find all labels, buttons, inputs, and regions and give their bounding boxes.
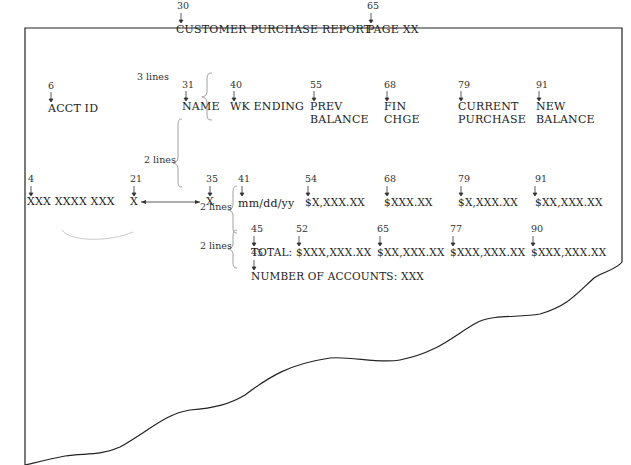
spacing-label: 2 lines	[200, 240, 232, 251]
heading-wk-ending: WK ENDING	[230, 101, 304, 113]
detail-fin-chge: $XXX.XX	[384, 196, 433, 208]
col-number: 35	[206, 174, 218, 184]
col-number: 6	[48, 81, 54, 91]
total-fin-chge: $XX,XXX.XX	[377, 246, 445, 258]
number-of-accounts: NUMBER OF ACCOUNTS: XXX	[251, 270, 424, 282]
col-number: 65	[367, 1, 379, 11]
detail-new-balance: $XX,XXX.XX	[535, 196, 603, 208]
page-number-field: PAGE XX	[367, 24, 419, 36]
col-number: 31	[182, 80, 194, 90]
col-number: 79	[458, 80, 470, 90]
heading-fin-chge-1: FIN	[384, 101, 406, 113]
col-number: 91	[535, 174, 547, 184]
col-number: 68	[384, 80, 396, 90]
col-number: 55	[310, 80, 322, 90]
col-number: 79	[458, 174, 470, 184]
col-number: 41	[238, 174, 250, 184]
spacing-label: 2 lines	[200, 201, 232, 212]
col-number: 52	[296, 224, 308, 234]
spacing-label: 2 lines	[144, 154, 176, 165]
col-number: 40	[230, 80, 242, 90]
total-new-balance: $XXX,XXX.XX	[531, 246, 606, 258]
detail-prev-balance: $X,XXX.XX	[305, 196, 365, 208]
col-number: 68	[384, 174, 396, 184]
col-number: 30	[177, 1, 189, 11]
detail-name-start: X	[130, 196, 138, 208]
report-title: CUSTOMER PURCHASE REPORT	[176, 24, 371, 36]
col-number: 54	[305, 174, 317, 184]
brace-2-lines-a	[173, 119, 182, 187]
heading-current-purchase-2: PURCHASE	[458, 114, 526, 126]
col-number: 65	[377, 224, 389, 234]
heading-new-balance-2: BALANCE	[536, 114, 595, 126]
heading-fin-chge-2: CHGE	[384, 114, 420, 126]
detail-name-end: X	[206, 196, 214, 208]
detail-current-purchase: $X,XXX.XX	[458, 196, 518, 208]
heading-current-purchase-1: CURRENT	[458, 101, 519, 113]
detail-acct-id: XXX XXXX XXX	[27, 196, 115, 208]
col-number: 21	[130, 174, 142, 184]
heading-acct-id: ACCT ID	[48, 103, 98, 115]
total-prev-balance: $XXX,XXX.XX	[296, 246, 371, 258]
total-current-purchase: $XXX,XXX.XX	[450, 246, 525, 258]
detail-week-ending: mm/dd/yy	[238, 198, 294, 210]
col-number: 45	[251, 224, 263, 234]
col-number: 45	[251, 248, 263, 258]
spacing-label: 3 lines	[137, 71, 169, 82]
col-number: 4	[28, 174, 34, 184]
heading-name: NAME	[182, 101, 220, 113]
col-number: 77	[450, 224, 462, 234]
heading-prev-balance-1: PREV	[310, 101, 342, 113]
col-number: 91	[536, 80, 548, 90]
col-number: 90	[531, 224, 543, 234]
heading-new-balance-1: NEW	[536, 101, 566, 113]
heading-prev-balance-2: BALANCE	[310, 114, 369, 126]
